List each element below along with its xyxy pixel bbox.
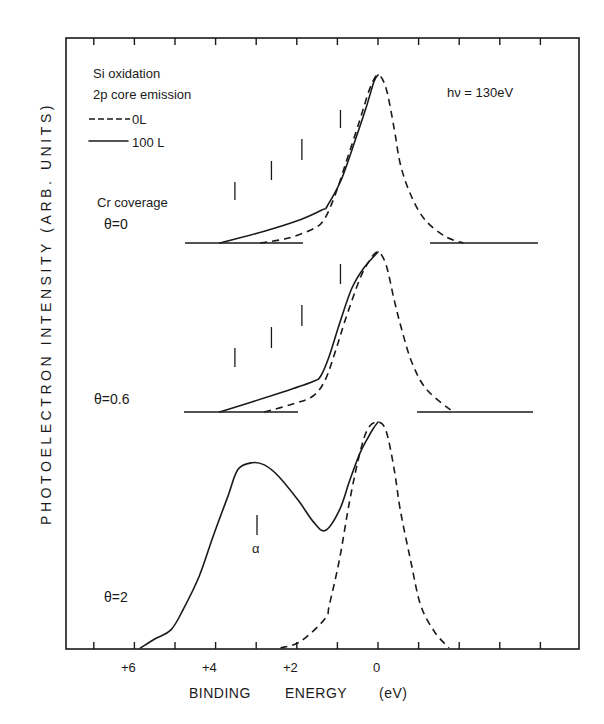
coverage-title: Cr coverage bbox=[97, 195, 168, 210]
curve-100L bbox=[220, 75, 378, 243]
x-axis-label-binding: BINDING bbox=[189, 685, 251, 701]
photon-energy-label: hν = 130eV bbox=[447, 85, 513, 100]
top-axis-ticks bbox=[94, 38, 541, 45]
panel-label-theta-0-6: θ=0.6 bbox=[94, 391, 130, 407]
x-axis-label-unit: (eV) bbox=[379, 685, 407, 701]
legend-title-line-2: 2p core emission bbox=[93, 87, 191, 102]
plot-frame bbox=[66, 38, 579, 649]
y-axis-label: PHOTOELECTRON INTENSITY (ARB. UNITS) bbox=[38, 105, 54, 525]
panel-label-theta-0: θ=0 bbox=[104, 216, 128, 232]
curve-0L bbox=[260, 75, 463, 243]
legend-title-line-1: Si oxidation bbox=[93, 66, 160, 81]
panel-label-theta-2: θ=2 bbox=[104, 589, 128, 605]
x-tick-label-4: +4 bbox=[202, 660, 217, 675]
spectrum-panel-3 bbox=[141, 422, 450, 648]
curve-0L bbox=[281, 422, 450, 648]
legend-solid-label: 100 L bbox=[132, 135, 165, 150]
x-tick-label-0: 0 bbox=[373, 660, 380, 675]
curve-100L bbox=[141, 422, 379, 648]
spectrum-panel-1 bbox=[185, 75, 538, 243]
xps-spectra-chart: Si oxidation 2p core emission 0L 100 L h… bbox=[0, 0, 604, 724]
bottom-axis-ticks bbox=[94, 642, 541, 649]
alpha-label: α bbox=[252, 541, 260, 556]
curve-100L bbox=[220, 252, 378, 412]
spectra-panels bbox=[141, 75, 539, 648]
x-axis-label-energy: ENERGY bbox=[285, 685, 347, 701]
spectrum-panel-2 bbox=[184, 252, 533, 412]
x-tick-label-6: +6 bbox=[121, 660, 136, 675]
x-tick-label-2: +2 bbox=[283, 660, 298, 675]
legend-dashed-label: 0L bbox=[132, 112, 146, 127]
